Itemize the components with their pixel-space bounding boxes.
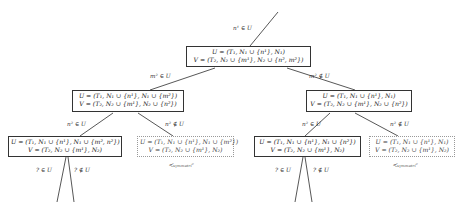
symmetric-annotation-right: ≺ₛᵧₘₘₑₜᵣᵢᶜ	[392, 161, 418, 168]
node-v-line: V = (T₂, N₂ ∪ {m¹}, N₂ ∪ {n²})	[75, 100, 181, 108]
tree-node-left: U = (T₁, N₁ ∪ {n¹}, N₁ ∪ {m²}) V = (T₂, …	[72, 90, 184, 112]
edge-root-left	[150, 68, 215, 90]
edge-rl-out	[305, 157, 312, 202]
node-u-line: U = (T₁, N₁ ∪ {n¹}, N₁ ∪ {n²})	[257, 138, 358, 146]
node-v-line: V = (T₂, N₂ ∪ {m¹}, N₂)	[11, 146, 119, 154]
node-v-line: V = (T₂, N₂ ∪ {m¹}, N₂)	[140, 146, 231, 154]
edge-label-left-right: n² ∉ U	[165, 121, 184, 127]
node-v-line: V = (T₂, N₂ ∪ {m¹}, N₂ ∪ {n², m²})	[189, 56, 308, 64]
node-u-line: U = (T₁, N₁ ∪ {n¹}, N₁ ∪ {m²})	[140, 138, 231, 146]
tree-node-left-left: U = (T₁, N₁ ∪ {n¹}, N₁ ∪ {m², n²}) V = (…	[8, 136, 122, 157]
tree-node-root: U = (T₁, N₁ ∪ {n¹}, N₁) V = (T₂, N₂ ∪ {m…	[186, 46, 311, 67]
node-v-line: V = (T₂, N₂ ∪ {m¹}, N₂)	[257, 146, 358, 154]
node-u-line: U = (T₁, N₁ ∪ {n¹}, N₁)	[372, 138, 452, 146]
node-u-line: U = (T₁, N₁ ∪ {n¹}, N₁ ∪ {m²})	[75, 92, 181, 100]
edge-label-left-left: n² ∈ U	[67, 121, 86, 127]
edge-label-ll-out: ? ∉ U	[74, 167, 90, 173]
node-u-line: U = (T₁, N₁ ∪ {n¹}, N₁ ∪ {m², n²})	[11, 138, 119, 146]
node-u-line: U = (T₁, N₁ ∪ {n¹}, N₁)	[189, 48, 308, 56]
edge-label-top: n¹ ∈ U	[233, 25, 252, 31]
edge-label-ll-in: ? ∈ U	[36, 167, 52, 173]
tree-node-right-right: U = (T₁, N₁ ∪ {n¹}, N₁) V = (T₂, N₂ ∪ {m…	[369, 136, 455, 157]
edge-label-root-right: m² ∉ U	[309, 73, 330, 79]
node-u-line: U = (T₁, N₁ ∪ {n¹}, N₁)	[309, 92, 409, 100]
edge-ll-in	[57, 157, 66, 202]
node-v-line: V = (T₂, N₂ ∪ {m¹}, N₂ ∪ {n²})	[309, 100, 409, 108]
edge-label-right-left: n² ∈ U	[302, 121, 321, 127]
edge-label-rl-in: ? ∈ U	[275, 167, 291, 173]
tree-node-right: U = (T₁, N₁ ∪ {n¹}, N₁) V = (T₂, N₂ ∪ {m…	[306, 90, 412, 112]
edge-root-right	[287, 68, 355, 90]
edge-label-rl-out: ? ∉ U	[313, 167, 329, 173]
edge-label-right-right: n² ∉ U	[390, 121, 409, 127]
edge-ll-out	[68, 157, 74, 202]
symmetric-annotation-left: ≺ₛᵧₘₘₑₜᵣᵢᶜ	[168, 161, 194, 168]
edge-top	[250, 12, 278, 46]
tree-node-left-right: U = (T₁, N₁ ∪ {n¹}, N₁ ∪ {m²}) V = (T₂, …	[137, 136, 234, 157]
tree-node-right-left: U = (T₁, N₁ ∪ {n¹}, N₁ ∪ {n²}) V = (T₂, …	[254, 136, 361, 157]
node-v-line: V = (T₂, N₂ ∪ {m¹}, N₂)	[372, 146, 452, 154]
edge-rl-in	[295, 157, 303, 202]
edge-label-root-left: m² ∈ U	[150, 73, 171, 79]
